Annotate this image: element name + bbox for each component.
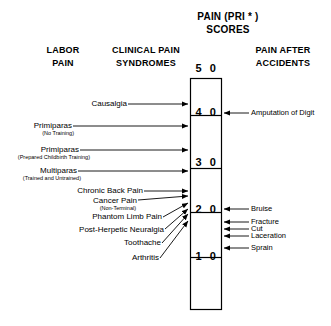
scale-tick-40: 4 0: [196, 107, 219, 118]
pain-score-chart: PAIN (PRI * ) SCORES LABOR PAIN CLINICAL…: [0, 0, 331, 326]
scale-tick-20: 2 0: [196, 204, 219, 215]
header-pain-after-accidents-line1: PAIN AFTER: [256, 46, 311, 55]
header-labor-pain-line2: PAIN: [52, 59, 74, 68]
header-labor-pain-line1: LABOR: [47, 46, 80, 55]
label-arthritis: Arthritis: [132, 254, 159, 262]
leader-cancer-pain: [138, 196, 188, 200]
label-toothache: Toothache: [124, 239, 161, 247]
label-causalgia: Causalgia: [91, 100, 127, 108]
sublabel-primiparas-prepared: (Prepared Childbirth Training): [18, 155, 90, 161]
label-chronic-back-pain: Chronic Back Pain: [77, 187, 143, 195]
label-amputation-of-digit: Amputation of Digit: [251, 109, 314, 117]
right-leader-lines: [224, 113, 249, 248]
label-laceration: Laceration: [251, 232, 286, 240]
sublabel-primiparas-no-training: (No Training): [42, 131, 74, 137]
chart-title-line2: SCORES: [206, 25, 249, 35]
header-pain-after-accidents-line2: ACCIDENTS: [256, 59, 310, 68]
label-post-herpetic-neuralgia: Post-Herpetic Neuralgia: [79, 226, 164, 234]
sublabel-multiparas: (Trained and Untrained): [23, 176, 81, 182]
label-cancer-pain: Cancer Pain: [93, 197, 137, 205]
scale-tick-30: 3 0: [196, 157, 219, 168]
sublabel-cancer-pain: (Non-Terminal): [100, 206, 136, 212]
left-leader-lines: [73, 104, 188, 258]
leader-arthritis: [160, 221, 188, 258]
leader-phantom-limb-pain: [163, 203, 188, 217]
label-sprain: Sprain: [251, 244, 273, 252]
chart-title-line1: PAIN (PRI * ): [197, 12, 258, 22]
header-clinical-pain-line1: CLINICAL PAIN: [112, 46, 180, 55]
label-multiparas: Multiparas: [40, 167, 77, 175]
label-bruise: Bruise: [251, 205, 272, 213]
label-primiparas-no-training: Primiparas: [34, 122, 72, 130]
scale-tick-10: 1 0: [196, 251, 219, 262]
scale-tick-50: 5 0: [196, 63, 219, 74]
header-clinical-pain-line2: SYNDROMES: [116, 59, 176, 68]
label-phantom-limb-pain: Phantom Limb Pain: [92, 213, 162, 221]
label-primiparas-prepared: Primiparas: [41, 146, 79, 154]
